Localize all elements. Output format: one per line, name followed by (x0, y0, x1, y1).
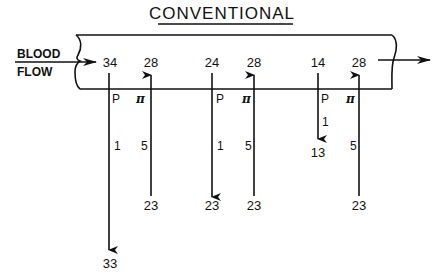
bottom-value: 23 (352, 198, 366, 213)
column-4-oncotic: 28 π 5 23 (241, 55, 261, 213)
flux-label: 1 (322, 115, 329, 129)
top-value: 28 (247, 55, 261, 70)
flow-label: FLOW (17, 65, 53, 79)
capillary-starling-diagram: CONVENTIONAL BLOOD FLOW 34 P 1 33 28 π 5… (0, 0, 443, 274)
top-value: 28 (144, 55, 158, 70)
symbol-label: π (135, 92, 145, 106)
flux-label: 5 (141, 139, 148, 153)
symbol-label: P (216, 92, 224, 106)
blood-label: BLOOD (17, 47, 61, 61)
top-value: 14 (311, 55, 325, 70)
column-2-oncotic: 28 π 5 23 (135, 55, 158, 213)
flux-label: 1 (114, 139, 121, 153)
column-6-oncotic: 28 π 5 23 (345, 55, 366, 213)
symbol-label: P (321, 92, 329, 106)
column-3-hydrostatic: 24 P 1 23 (205, 55, 224, 213)
flux-label: 1 (217, 139, 224, 153)
bottom-value: 23 (144, 198, 158, 213)
bottom-value: 33 (103, 256, 117, 271)
symbol-label: P (112, 92, 120, 106)
flux-label: 5 (350, 139, 357, 153)
blood-flow-inflow: BLOOD FLOW (15, 47, 96, 79)
capillary-tube (75, 35, 396, 89)
symbol-label: π (345, 92, 355, 106)
top-value: 28 (352, 55, 366, 70)
symbol-label: π (241, 92, 251, 106)
bottom-value: 13 (311, 145, 325, 160)
bottom-value: 23 (205, 198, 219, 213)
column-1-hydrostatic: 34 P 1 33 (103, 55, 121, 271)
bottom-value: 23 (247, 198, 261, 213)
top-value: 24 (205, 55, 219, 70)
diagram-title: CONVENTIONAL (149, 4, 295, 23)
column-5-hydrostatic: 14 P 1 13 (311, 55, 329, 160)
top-value: 34 (103, 55, 117, 70)
flux-label: 5 (245, 139, 252, 153)
